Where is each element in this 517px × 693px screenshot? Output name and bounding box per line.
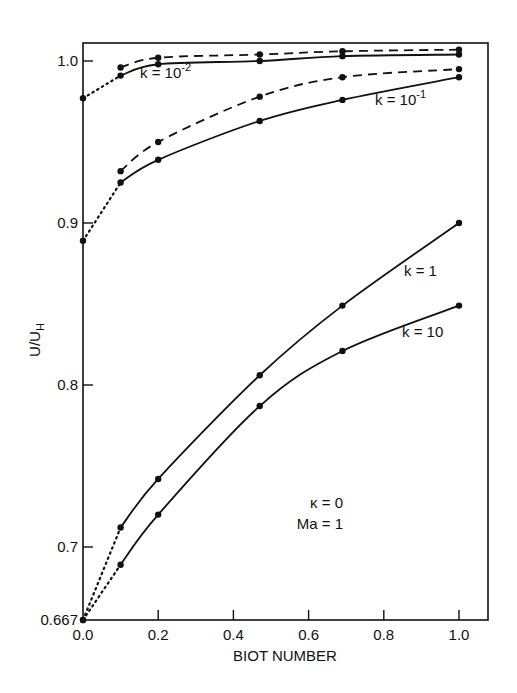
label-k-1e-2: k = 10-2 xyxy=(140,61,191,81)
svg-text:0.4: 0.4 xyxy=(223,626,244,643)
annotation-kappa: κ = 0 xyxy=(310,494,343,511)
svg-text:U/UH: U/UH xyxy=(26,323,46,357)
label-k-1e-1: k = 10-1 xyxy=(375,88,426,108)
svg-text:0.667: 0.667 xyxy=(40,611,78,628)
svg-text:0.9: 0.9 xyxy=(57,214,78,231)
biot-number-chart: 0.00.20.40.60.81.0 0.6670.70.80.91.0 BIO… xyxy=(0,0,517,693)
svg-text:0.6: 0.6 xyxy=(298,626,319,643)
x-axis-label: BIOT NUMBER xyxy=(233,647,337,664)
label-k-10: k = 10 xyxy=(402,323,443,340)
annotation-ma: Ma = 1 xyxy=(297,515,343,532)
svg-text:1.0: 1.0 xyxy=(449,626,470,643)
svg-text:0.0: 0.0 xyxy=(73,626,94,643)
y-axis-label: U/UH xyxy=(26,323,46,357)
svg-text:0.8: 0.8 xyxy=(57,376,78,393)
x-axis-ticks: 0.00.20.40.60.81.0 xyxy=(73,610,470,643)
svg-text:0.2: 0.2 xyxy=(148,626,169,643)
y-axis-ticks: 0.6670.70.80.91.0 xyxy=(40,52,93,628)
svg-text:1.0: 1.0 xyxy=(57,52,78,69)
svg-text:0.7: 0.7 xyxy=(57,538,78,555)
svg-text:0.8: 0.8 xyxy=(373,626,394,643)
label-k-1: k = 1 xyxy=(404,262,437,279)
